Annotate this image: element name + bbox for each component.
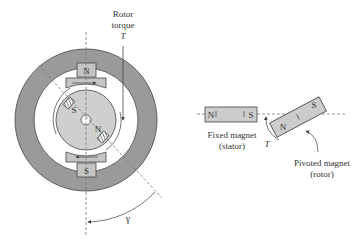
- pivoted-magnet-label-line1: Pivoted magnet: [294, 158, 351, 168]
- gamma-label: γ: [125, 213, 131, 224]
- fixed-magnet-north: N: [208, 110, 215, 120]
- motor-cross-section: Rotor torque T N S S N γ: [15, 9, 162, 236]
- rotor-torque-label-line2: torque: [112, 20, 135, 30]
- motor-torque-diagram: Rotor torque T N S S N γ N S Fixed magne…: [0, 0, 354, 242]
- rotor-s-pole-label: S: [71, 105, 76, 115]
- pivoted-magnet-north: N: [280, 122, 287, 132]
- fixed-magnet-label-line1: Fixed magnet: [207, 130, 257, 140]
- bar-magnet-analogy: N S Fixed magnet (stator) N S T Pivoted …: [197, 97, 351, 179]
- pivoted-magnet-label-line2: (rotor): [310, 169, 334, 179]
- stator-top-pole-label: N: [83, 66, 90, 76]
- rotor-torque-label-line1: Rotor: [113, 9, 134, 19]
- pivoted-magnet: [270, 97, 327, 137]
- pivoted-magnet-south: S: [311, 100, 316, 110]
- fixed-magnet-south: S: [248, 110, 253, 120]
- rotor-n-pole-label: N: [95, 124, 102, 134]
- bar-torque-symbol: T: [264, 139, 270, 149]
- stator-bottom-pole-label: S: [84, 166, 89, 176]
- fixed-magnet-label-line2: (stator): [219, 141, 245, 151]
- gamma-angle-arc: [88, 192, 155, 222]
- rotor-torque-symbol: T: [120, 31, 126, 41]
- pivoted-magnet-pointer: [306, 131, 318, 152]
